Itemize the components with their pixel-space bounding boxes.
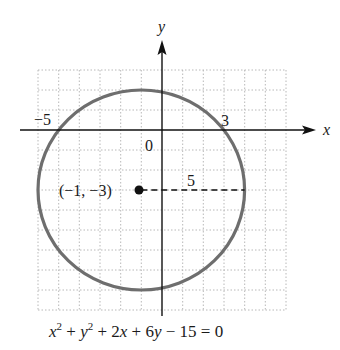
origin-label: 0 (145, 137, 153, 154)
y-axis (158, 40, 167, 316)
y-axis-label: y (156, 18, 166, 36)
center-point (135, 186, 144, 195)
x-intercept-right-label: 3 (221, 112, 229, 129)
equation-label: x2 + y2 + 2x + 6y − 15 = 0 (48, 320, 223, 341)
x-intercept-left-label: −5 (34, 111, 51, 128)
circle-graph-figure: y x 0 −5 3 (−1, −3) 5 x2 + y2 + 2x + 6y … (0, 0, 340, 350)
radius-label: 5 (187, 172, 195, 189)
x-axis-label: x (322, 121, 330, 138)
center-label: (−1, −3) (59, 182, 112, 200)
x-axis (20, 126, 316, 135)
